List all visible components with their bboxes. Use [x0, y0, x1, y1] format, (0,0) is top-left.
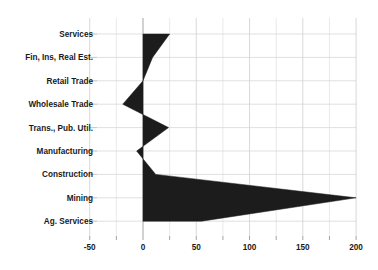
x-tick-label-1: 0 — [141, 243, 146, 252]
x-tick-label-0: -50 — [84, 243, 96, 252]
x-tick-label-3: 100 — [243, 243, 257, 252]
x-tick-label-2: 50 — [192, 243, 202, 252]
category-label-0: Services — [59, 30, 93, 39]
category-label-6: Construction — [42, 170, 93, 179]
category-label-7: Mining — [67, 194, 93, 203]
chart-container: ServicesFin, Ins, Real Est.Retail TradeW… — [0, 0, 378, 270]
x-tick-label-5: 200 — [349, 243, 363, 252]
chart-background — [0, 0, 378, 270]
category-label-1: Fin, Ins, Real Est. — [25, 53, 93, 62]
category-label-3: Wholesale Trade — [28, 100, 93, 109]
category-label-8: Ag. Services — [44, 217, 94, 226]
category-label-4: Trans., Pub. Util. — [29, 124, 93, 133]
category-label-5: Manufacturing — [37, 147, 93, 156]
category-label-2: Retail Trade — [47, 77, 94, 86]
x-tick-label-4: 150 — [296, 243, 310, 252]
horizontal-area-chart: ServicesFin, Ins, Real Est.Retail TradeW… — [0, 0, 378, 270]
